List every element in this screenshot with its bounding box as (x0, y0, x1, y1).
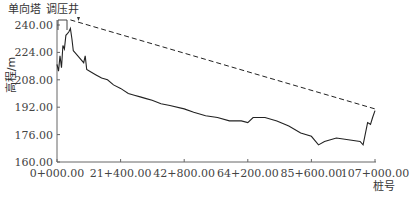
x-tick-label: 64+200.00 (217, 167, 279, 180)
ground-profile-line (57, 28, 375, 144)
y-tick-label: 224.00 (15, 46, 54, 59)
annotation-label: 单向塔 (8, 2, 41, 16)
x-tick-label: 21+400.00 (90, 167, 152, 180)
x-tick-label: 85+600.00 (281, 167, 343, 180)
surge-well-marker-icon (77, 17, 80, 21)
pressure-line (70, 20, 375, 109)
y-tick-label: 240.00 (15, 19, 54, 32)
x-tick-label: 42+800.00 (153, 167, 215, 180)
y-tick-label: 208.00 (15, 74, 54, 87)
elevation-profile-chart: 160.00176.00192.00208.00224.00240.00 0+0… (0, 0, 414, 200)
y-ticks: 160.00176.00192.00208.00224.00240.00 (15, 19, 61, 169)
series (57, 20, 375, 145)
x-axis-label: 桩号 (373, 179, 395, 193)
y-tick-label: 176.00 (15, 129, 54, 142)
x-tick-label: 0+000.00 (30, 167, 85, 180)
y-tick-label: 192.00 (15, 101, 54, 114)
annotation-label: 调压井 (46, 2, 79, 16)
y-axis-label: 高程/m (4, 57, 18, 93)
x-tick-label: 107+000.00 (341, 167, 410, 180)
